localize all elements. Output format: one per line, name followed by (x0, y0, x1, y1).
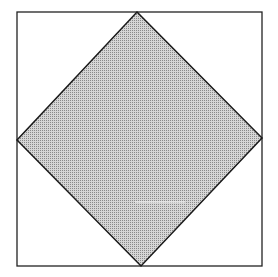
diagram-canvas (0, 0, 278, 277)
